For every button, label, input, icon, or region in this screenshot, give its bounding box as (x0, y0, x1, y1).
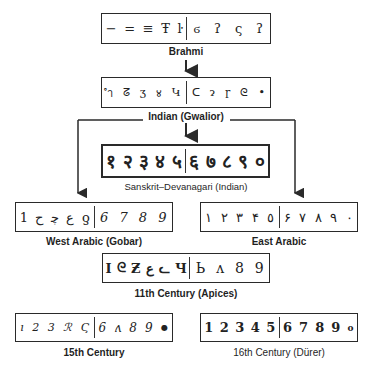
glyph: 4 (251, 320, 260, 335)
glyph: 8 (315, 320, 324, 335)
glyphs-6-0: ६ ७ ८ ९ ० (186, 146, 268, 176)
glyph: ٣ (236, 210, 243, 225)
glyph: ५ (172, 148, 182, 174)
glyphs-1-5: I ᘓ Ƶ ع ᓚ Ч (103, 254, 189, 282)
glyph: ᘓ (117, 260, 126, 276)
glyph: ʔ (256, 21, 263, 36)
glyph: ʒ (140, 86, 146, 99)
glyph: ᘓ (240, 86, 248, 99)
node-15th-century: ı 2 3 ℛ Ϛ 6 ʌ 8 9 ● (15, 313, 173, 342)
glyph: 1 (20, 210, 28, 225)
node-16th-century: 1 2 3 4 5 6 7 8 9 o (200, 313, 358, 342)
glyph: 8 (235, 260, 244, 276)
glyph: ≡ (143, 21, 154, 36)
glyph: ᓚ (159, 261, 170, 276)
glyph: 3 (48, 321, 55, 334)
node-east-arabic: ١ ٢ ٣ ۴ ٥ ۶ ٧ ٨ ٩ ٠ (200, 202, 358, 232)
label-east-arabic: East Arabic (252, 236, 307, 247)
label-apices: 11th Century (Apices) (135, 288, 238, 299)
label-16th-century: 16th Century (Dürer) (233, 347, 325, 358)
glyph: ʌ (114, 321, 121, 335)
glyph: ० (255, 148, 265, 174)
label-west-arabic: West Arabic (Gobar) (46, 236, 142, 247)
glyph: 9 (331, 320, 340, 335)
glyphs-1-5: ı 2 3 ℛ Ϛ (16, 314, 94, 341)
glyph: ᑕ (192, 86, 200, 99)
glyph: ४ (156, 85, 162, 100)
glyph: ำ (107, 84, 113, 102)
glyph: ح (35, 210, 43, 225)
label-gwalior: Indian (Gwalior) (145, 111, 227, 122)
node-devanagari: १ २ ३ ४ ५ ६ ७ ८ ९ ० (101, 144, 270, 178)
glyph: ʔ (214, 21, 221, 36)
glyph: Ч (175, 261, 187, 276)
glyph: Կ (172, 86, 181, 99)
glyph: 3 (235, 320, 244, 335)
glyphs-1-5: − = ≡ Ŧ ŀ (102, 14, 186, 43)
glyph: ४ (155, 148, 165, 174)
glyph: = (124, 21, 135, 36)
node-apices: I ᘓ Ƶ ع ᓚ Ч Ь ʌ 8 9 (102, 253, 270, 283)
glyph: ८ (222, 148, 232, 174)
glyphs-6-9: Ь ʌ 8 9 (190, 254, 269, 282)
glyphs-6-0: 6 ʌ 8 9 ● (95, 314, 173, 341)
glyph: २ (123, 148, 133, 174)
glyph: 6 (283, 320, 292, 335)
glyph: ६ (189, 148, 199, 174)
glyph: ɼ (225, 86, 230, 99)
glyph: ᘔ (123, 86, 130, 99)
node-brahmi: − = ≡ Ŧ ŀ ϭ ʔ ς ʔ (101, 13, 271, 44)
glyph: ١ (205, 210, 212, 225)
glyph: ९ (238, 148, 248, 174)
glyphs-1-5: १ २ ३ ४ ५ (103, 146, 185, 176)
glyph: 6 (100, 210, 108, 225)
glyph: Ь (196, 260, 205, 276)
glyph: ٢ (221, 210, 228, 225)
glyph: 9 (145, 321, 153, 335)
glyphs-6-9: ϭ ʔ ς ʔ (187, 14, 271, 43)
glyph: ɂ (210, 86, 215, 99)
glyph: ٨ (315, 210, 322, 225)
glyphs-1-5: ำ ᘔ ʒ ४ Կ (102, 78, 186, 107)
glyph: ٩ (330, 210, 337, 225)
glyph: ۶ (284, 210, 291, 225)
glyph: ٥ (267, 210, 274, 225)
glyph: ʌ (216, 260, 224, 276)
glyph: Ƶ (131, 261, 141, 276)
glyph: ŀ (177, 21, 181, 36)
glyph: 9 (255, 260, 264, 276)
glyph: o (347, 323, 353, 333)
glyph: 5 (266, 320, 275, 335)
glyph: ı (20, 321, 24, 334)
glyphs-1-5: 1 ح ﭼ ع ƍ (16, 203, 94, 231)
glyph: 7 (119, 210, 127, 225)
label-brahmi: Brahmi (169, 46, 203, 57)
glyph: • (258, 86, 265, 99)
label-devanagari: Sanskrit–Devanagari (Indian) (124, 181, 247, 192)
glyph: 7 (299, 320, 308, 335)
glyph: 2 (32, 321, 39, 334)
glyph: १ (106, 148, 116, 174)
node-west-arabic: 1 ح ﭼ ع ƍ 6 7 8 9 (15, 202, 173, 232)
glyph: Ŧ (161, 21, 170, 36)
label-15th-century: 15th Century (63, 347, 124, 358)
glyph: 1 (204, 320, 213, 335)
glyph: ٠ (346, 210, 353, 225)
glyphs-1-5: 1 2 3 4 5 (201, 314, 279, 341)
glyphs-6-0: ۶ ٧ ٨ ٩ ٠ (280, 203, 358, 231)
glyph: ७ (206, 148, 216, 174)
glyph: 8 (129, 321, 137, 335)
glyphs-6-0: 6 7 8 9 o (280, 314, 358, 341)
glyphs-6-9: 6 7 8 9 (95, 203, 173, 231)
glyph: 8 (139, 210, 147, 225)
glyph: ﭼ (51, 210, 59, 225)
glyphs-6-0: ᑕ ɂ ɼ ᘓ • (187, 78, 271, 107)
glyph: ● (161, 323, 168, 332)
glyph: ع (146, 261, 154, 276)
glyph: ३ (139, 148, 149, 174)
glyph: ℛ (63, 321, 72, 334)
glyph: I (106, 261, 112, 276)
glyph: Ϛ (81, 321, 89, 334)
glyph: ϭ (193, 21, 200, 37)
glyph: 2 (220, 320, 229, 335)
